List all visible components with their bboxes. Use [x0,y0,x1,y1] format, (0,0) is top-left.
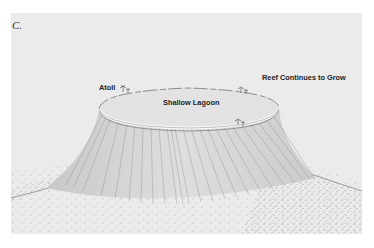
atoll-illustration [11,13,362,234]
shallow-lagoon-label: Shallow Lagoon [163,98,219,107]
figure-panel-label: C. [12,19,22,31]
illustration-panel [11,13,362,234]
reef-continues-label: Reef Continues to Grow [262,73,346,82]
atoll-label: Atoll [99,83,115,92]
